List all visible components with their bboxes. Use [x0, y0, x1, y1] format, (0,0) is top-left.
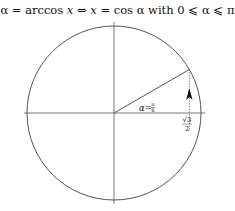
angle-label-denominator: 6 [151, 107, 154, 113]
angle-label-prefix: α= [139, 103, 152, 113]
cos-label-numerator: √3 [183, 116, 192, 124]
cos-value-label: √3 2 [182, 116, 192, 133]
unit-circle-diagram: α= π 6 √3 2 [0, 0, 235, 211]
cos-label-denominator: 2 [185, 125, 189, 133]
angle-label: α= π 6 [139, 101, 155, 113]
